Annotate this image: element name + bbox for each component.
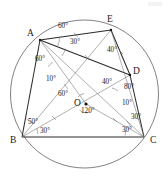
vertex-label-A: A xyxy=(27,28,34,38)
angle-label-a-top-60: 60° xyxy=(58,22,68,30)
center-point-dot xyxy=(84,102,87,105)
vertex-label-E: E xyxy=(107,14,113,24)
angle-label-b-30: 30° xyxy=(40,127,50,135)
angle-label-d-80: 80° xyxy=(124,83,134,91)
angle-arc-D-80 xyxy=(112,88,118,91)
vertex-dot-E xyxy=(110,29,112,31)
angle-label-c-30-upper: 30° xyxy=(131,113,141,121)
tick-mark-BE xyxy=(64,84,68,89)
geometry-figure: A E D C B O 60° 30° 60° 10° 40° 60° 120°… xyxy=(0,0,168,185)
scan-artifact xyxy=(148,2,162,6)
angle-label-c-30-base: 30° xyxy=(122,126,132,134)
angle-label-mid-60: 60° xyxy=(58,90,68,98)
angle-label-e-40: 40° xyxy=(107,46,117,54)
vertex-label-B: B xyxy=(10,135,16,145)
angle-label-c-10: 10° xyxy=(122,99,132,107)
angle-label-d-40: 40° xyxy=(102,78,112,86)
angle-label-a-left-60: 60° xyxy=(35,55,45,63)
vertex-label-D: D xyxy=(133,66,140,76)
angle-arc-A-60-left xyxy=(48,62,53,67)
vertex-dot-A xyxy=(39,39,41,41)
angle-label-a-10: 10° xyxy=(46,75,56,83)
vertex-label-C: C xyxy=(150,135,156,145)
angle-label-o-120: 120° xyxy=(81,107,95,115)
geometry-canvas: A E D C B O 60° 30° 60° 10° 40° 60° 120°… xyxy=(0,0,168,185)
vertex-label-O: O xyxy=(74,98,81,108)
vertex-dot-D xyxy=(129,74,131,76)
angle-label-a-30: 30° xyxy=(70,38,80,46)
angle-label-b-50: 50° xyxy=(28,118,38,126)
circumscribed-circle xyxy=(11,20,159,168)
angle-arc-B-30 xyxy=(37,128,38,134)
